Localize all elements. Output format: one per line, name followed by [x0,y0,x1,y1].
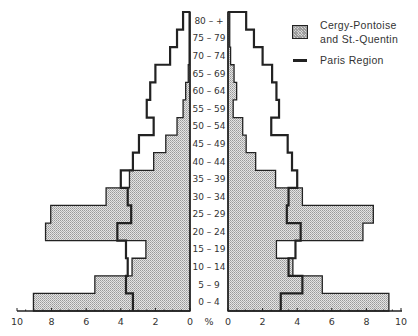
population-pyramid-chart: 10864200246810% 0 – 45 – 910 – 1415 – 19… [0,0,418,336]
x-tick-right: 4 [294,316,300,327]
cergy-left-bars [33,12,190,311]
x-tick-left: 2 [152,316,158,327]
legend-label-cergy-2: and St.-Quentin [320,33,398,46]
age-group-labels: 0 – 45 – 910 – 1415 – 1920 – 2425 – 2930… [192,16,225,307]
x-tick-right: 6 [329,316,335,327]
age-group-label: 45 – 49 [192,139,225,149]
x-tick-right: 10 [395,316,407,327]
age-group-label: 80 – + [194,16,223,26]
age-group-label: 10 – 14 [192,262,225,272]
age-group-label: 15 – 19 [192,244,225,254]
age-group-label: 25 – 29 [192,209,225,219]
x-tick-right: 0 [225,316,231,327]
age-group-label: 5 – 9 [198,280,220,290]
cergy-bars-L [33,12,190,311]
age-group-label: 35 – 39 [192,174,225,184]
x-tick-left: 4 [118,316,124,327]
age-group-label: 50 – 54 [192,121,225,131]
legend-swatch-paris [293,59,307,62]
x-tick-left: 6 [83,316,89,327]
legend-swatch-cergy [292,25,308,39]
x-axis-unit-label: % [204,316,213,327]
age-group-label: 30 – 34 [192,192,225,202]
age-group-label: 55 – 59 [192,104,225,114]
x-tick-right: 8 [363,316,369,327]
age-group-label: 0 – 4 [198,297,220,307]
age-group-label: 65 – 69 [192,69,225,79]
age-group-label: 60 – 64 [192,86,225,96]
x-tick-left: 10 [11,316,23,327]
legend-label-paris: Paris Region [320,54,384,67]
age-group-label: 40 – 44 [192,157,225,167]
age-group-label: 75 – 79 [192,33,225,43]
x-tick-left: 8 [49,316,55,327]
x-tick-left: 0 [187,316,193,327]
x-tick-right: 2 [260,316,266,327]
age-group-label: 20 – 24 [192,227,225,237]
age-group-label: 70 – 74 [192,51,225,61]
legend-label-cergy-1: Cergy-Pontoise [320,19,397,32]
